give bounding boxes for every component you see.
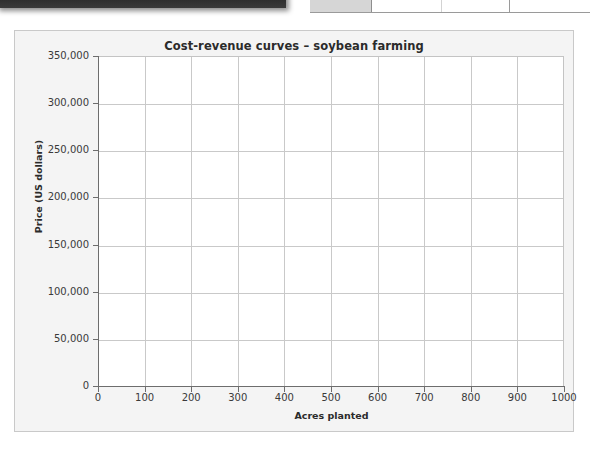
figure-card: Cost-revenue curves – soybean farming Pr… bbox=[14, 30, 574, 432]
y-tick-mark bbox=[93, 56, 98, 57]
plot-area[interactable] bbox=[98, 56, 564, 386]
x-tick-label: 0 bbox=[95, 393, 101, 403]
y-axis-title: Price (US dollars) bbox=[33, 117, 44, 257]
y-axis-line bbox=[98, 56, 99, 387]
y-tick-mark bbox=[93, 292, 98, 293]
x-tick-label: 1000 bbox=[551, 393, 576, 403]
y-tick-label: 50,000 bbox=[54, 334, 89, 344]
top-chrome-strip bbox=[0, 0, 590, 18]
y-tick-mark bbox=[93, 245, 98, 246]
grid-line-horizontal bbox=[98, 246, 563, 247]
partial-dark-toolbar[interactable] bbox=[0, 0, 286, 8]
y-tick-mark bbox=[93, 103, 98, 104]
grid-line-horizontal bbox=[98, 104, 563, 105]
grid-line-vertical bbox=[471, 57, 472, 386]
chart-title: Cost-revenue curves – soybean farming bbox=[15, 39, 573, 53]
y-tick-label: 250,000 bbox=[48, 145, 89, 155]
table-cell-4[interactable] bbox=[510, 0, 590, 12]
x-tick-label: 600 bbox=[368, 393, 387, 403]
x-tick-label: 100 bbox=[135, 393, 154, 403]
y-tick-mark bbox=[93, 339, 98, 340]
x-tick-label: 900 bbox=[508, 393, 527, 403]
grid-line-vertical bbox=[191, 57, 192, 386]
grid-line-vertical bbox=[424, 57, 425, 386]
y-tick-label: 200,000 bbox=[48, 192, 89, 202]
y-tick-label: 300,000 bbox=[48, 98, 89, 108]
grid-line-vertical bbox=[284, 57, 285, 386]
grid-line-horizontal bbox=[98, 293, 563, 294]
grid-line-horizontal bbox=[98, 151, 563, 152]
grid-line-horizontal bbox=[98, 340, 563, 341]
x-tick-label: 200 bbox=[182, 393, 201, 403]
y-tick-mark bbox=[93, 150, 98, 151]
x-tick-label: 400 bbox=[275, 393, 294, 403]
x-tick-label: 700 bbox=[415, 393, 434, 403]
grid-line-vertical bbox=[517, 57, 518, 386]
table-cell-2[interactable] bbox=[372, 0, 442, 12]
y-tick-label: 0 bbox=[83, 381, 89, 391]
grid-line-vertical bbox=[378, 57, 379, 386]
table-cell-3[interactable] bbox=[442, 0, 510, 12]
grid-line-vertical bbox=[145, 57, 146, 386]
grid-line-horizontal bbox=[98, 198, 563, 199]
x-tick-label: 300 bbox=[228, 393, 247, 403]
grid-line-vertical bbox=[238, 57, 239, 386]
partial-table-header-row[interactable] bbox=[310, 0, 590, 13]
y-tick-label: 150,000 bbox=[48, 240, 89, 250]
y-tick-label: 350,000 bbox=[48, 51, 89, 61]
grid-line-vertical bbox=[331, 57, 332, 386]
x-tick-label: 800 bbox=[461, 393, 480, 403]
x-axis-title: Acres planted bbox=[98, 410, 565, 421]
y-tick-label: 100,000 bbox=[48, 287, 89, 297]
table-cell-1[interactable] bbox=[310, 0, 372, 12]
y-tick-mark bbox=[93, 197, 98, 198]
y-tick-mark bbox=[93, 386, 98, 387]
x-tick-label: 500 bbox=[321, 393, 340, 403]
